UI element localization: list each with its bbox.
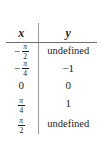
cell-x-value: π 2 <box>6 114 38 134</box>
column-header-y: y <box>38 23 97 42</box>
table-container: x y − π 2 <box>6 23 97 134</box>
fraction-pi-over-2: π 2 <box>18 117 25 134</box>
fraction-numerator: π <box>18 117 24 125</box>
cell-y-value: −1 <box>38 60 97 77</box>
table-row: − π 2 undefined <box>6 43 97 61</box>
y-value-text: −1 <box>62 63 74 74</box>
cell-x-value: − π 2 <box>6 43 38 61</box>
y-value-text: 1 <box>66 98 72 109</box>
table-row: − π 4 −1 <box>6 60 97 77</box>
fraction-numerator: π <box>18 97 24 105</box>
fraction: π 4 <box>18 97 25 114</box>
fraction-denominator: 2 <box>18 126 24 134</box>
cell-y-value: 1 <box>38 94 97 114</box>
cell-x-value: π 4 <box>6 94 38 114</box>
table-header: x y <box>6 23 97 43</box>
y-value-text: undefined <box>47 119 89 130</box>
minus-sign: − <box>14 63 20 74</box>
table-header-row: x y <box>6 23 97 42</box>
x-value-text: 0 <box>19 80 25 91</box>
cell-y-value: 0 <box>38 77 97 94</box>
fraction-denominator: 4 <box>22 69 28 77</box>
column-header-x: x <box>6 23 38 42</box>
fraction-numerator: π <box>22 43 28 51</box>
cell-y-value: undefined <box>38 43 97 61</box>
fraction-numerator: π <box>22 60 28 68</box>
fraction: π 4 <box>22 60 29 77</box>
fraction-neg-pi-over-4: − π 4 <box>14 60 29 77</box>
fraction: π 2 <box>22 43 29 60</box>
fraction-pi-over-4: π 4 <box>18 97 25 114</box>
cell-y-value: undefined <box>38 114 97 134</box>
table-row: π 2 undefined <box>6 114 97 134</box>
fraction-denominator: 4 <box>18 106 24 114</box>
cell-x-value: 0 <box>6 77 38 94</box>
y-value-text: 0 <box>66 80 72 91</box>
table-row: 0 0 <box>6 77 97 94</box>
function-table-figure: x y − π 2 <box>0 0 103 147</box>
fraction-neg-pi-over-2: − π 2 <box>14 43 29 60</box>
y-value-text: undefined <box>47 46 89 57</box>
cell-x-value: − π 4 <box>6 60 38 77</box>
minus-sign: − <box>14 46 20 57</box>
table-body: − π 2 undefined <box>6 43 97 135</box>
fraction: π 2 <box>18 117 25 134</box>
function-value-table: x y − π 2 <box>6 23 97 134</box>
table-row: π 4 1 <box>6 94 97 114</box>
